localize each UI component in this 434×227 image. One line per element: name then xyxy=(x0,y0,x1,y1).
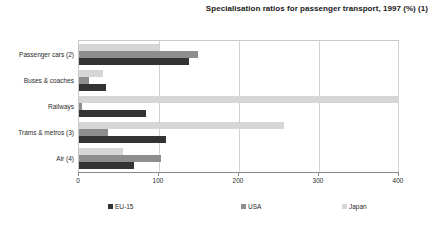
legend-item-usa[interactable]: USA xyxy=(241,203,261,210)
bar-usa-passenger-cars xyxy=(79,51,198,58)
y-axis-label-buses-coaches: Buses & coaches xyxy=(0,77,74,84)
legend-swatch-icon-japan xyxy=(342,204,347,209)
y-axis-labels: Passenger cars (2) Buses & coaches Railw… xyxy=(0,40,74,173)
bar-eu15-buses-coaches xyxy=(79,84,106,91)
y-axis-label-air: Air (4) xyxy=(0,155,74,162)
chart-container: Specialisation ratios for passenger tran… xyxy=(0,0,434,227)
y-axis-label-railways: Railways xyxy=(0,103,74,110)
x-tick-mark-0 xyxy=(78,173,79,176)
x-tick-mark-300 xyxy=(318,173,319,176)
legend-label-usa: USA xyxy=(248,203,261,210)
bar-eu15-railways xyxy=(79,110,146,117)
legend-label-japan: Japan xyxy=(349,203,367,210)
legend-label-eu15: EU-15 xyxy=(115,203,133,210)
bar-japan-passenger-cars xyxy=(79,44,159,51)
bar-usa-air xyxy=(79,155,161,162)
bar-usa-buses-coaches xyxy=(79,77,89,84)
x-tick-label-100: 100 xyxy=(153,177,164,184)
x-tick-mark-200 xyxy=(238,173,239,176)
y-axis-label-passenger-cars: Passenger cars (2) xyxy=(0,51,74,58)
bar-eu15-passenger-cars xyxy=(79,58,189,65)
legend-swatch-icon-usa xyxy=(241,204,246,209)
bar-usa-railways xyxy=(79,103,82,110)
legend-swatch-icon-eu15 xyxy=(108,204,113,209)
bar-eu15-trams-metros xyxy=(79,136,166,143)
gridline-400 xyxy=(398,41,399,172)
bar-eu15-air xyxy=(79,162,134,169)
x-tick-label-400: 400 xyxy=(393,177,404,184)
chart-legend: EU-15 USA Japan xyxy=(0,203,434,217)
x-tick-mark-100 xyxy=(158,173,159,176)
y-axis-label-trams-metros: Trams & metros (3) xyxy=(0,129,74,136)
gridline-300 xyxy=(319,41,320,172)
bar-japan-railways xyxy=(79,96,398,103)
plot-area xyxy=(78,40,399,173)
x-tick-label-0: 0 xyxy=(76,177,80,184)
x-tick-label-200: 200 xyxy=(233,177,244,184)
chart-title: Specialisation ratios for passenger tran… xyxy=(206,4,428,13)
legend-item-japan[interactable]: Japan xyxy=(342,203,367,210)
gridline-200 xyxy=(239,41,240,172)
legend-item-eu15[interactable]: EU-15 xyxy=(108,203,133,210)
bar-japan-buses-coaches xyxy=(79,70,103,77)
x-tick-mark-400 xyxy=(398,173,399,176)
bar-japan-air xyxy=(79,148,123,155)
x-tick-label-300: 300 xyxy=(313,177,324,184)
bar-japan-trams-metros xyxy=(79,122,284,129)
bar-usa-trams-metros xyxy=(79,129,108,136)
